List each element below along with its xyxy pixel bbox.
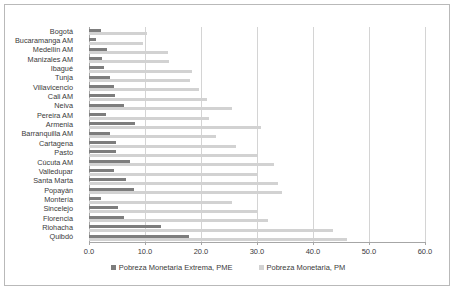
x-axis-tick xyxy=(257,242,258,245)
x-axis-tick xyxy=(313,242,314,245)
x-axis-tick-label: 30.0 xyxy=(250,247,265,256)
category-label: Armenia xyxy=(46,121,73,128)
bar-row: Valledupar xyxy=(5,167,449,176)
bar-pobreza-monetaria xyxy=(89,191,282,194)
bar-row: Armenia xyxy=(5,120,449,129)
bar-row: Riohacha xyxy=(5,223,449,232)
bar-pobreza-monetaria xyxy=(89,219,268,222)
bar-row: Bucaramanga AM xyxy=(5,36,449,45)
bar-pobreza-monetaria xyxy=(89,135,216,138)
bar-pobreza-monetaria-extrema xyxy=(89,57,102,60)
bar-pobreza-monetaria-extrema xyxy=(89,178,126,181)
chart-container: 0.010.020.030.040.050.060.0 BogotáBucara… xyxy=(0,0,457,294)
x-axis-tick xyxy=(425,242,426,245)
category-label: Ibagué xyxy=(51,65,73,72)
bar-pobreza-monetaria-extrema xyxy=(89,225,161,228)
bar-row: Popayán xyxy=(5,186,449,195)
bar-row: Pereira AM xyxy=(5,111,449,120)
category-label: Barranquilla AM xyxy=(21,130,73,137)
category-label: Medellín AM xyxy=(33,46,73,53)
legend-item[interactable]: Pobreza Monetaria, PM xyxy=(259,263,346,272)
legend-label: Pobreza Monetaria Extrema, PME xyxy=(119,263,233,272)
category-label: Pasto xyxy=(54,149,73,156)
category-label: Cartagena xyxy=(39,140,73,147)
bar-pobreza-monetaria-extrema xyxy=(89,235,189,238)
bar-pobreza-monetaria-extrema xyxy=(89,113,106,116)
bar-pobreza-monetaria xyxy=(89,107,232,110)
bar-row: Sincelejo xyxy=(5,205,449,214)
category-label: Valledupar xyxy=(39,168,73,175)
bar-pobreza-monetaria-extrema xyxy=(89,206,118,209)
bar-row: Manizales AM xyxy=(5,55,449,64)
bar-row: Cúcuta AM xyxy=(5,158,449,167)
bar-pobreza-monetaria xyxy=(89,173,257,176)
x-axis-tick xyxy=(89,242,90,245)
x-axis-tick xyxy=(145,242,146,245)
bar-row: Pasto xyxy=(5,149,449,158)
bar-row: Cartagena xyxy=(5,139,449,148)
bar-pobreza-monetaria xyxy=(89,42,143,45)
bar-row: Montería xyxy=(5,195,449,204)
x-axis-tick xyxy=(369,242,370,245)
legend-swatch-icon xyxy=(111,265,116,270)
bar-row: Barranquilla AM xyxy=(5,130,449,139)
bar-pobreza-monetaria xyxy=(89,32,147,35)
bar-pobreza-monetaria xyxy=(89,201,232,204)
category-label: Manizales AM xyxy=(28,56,73,63)
bar-pobreza-monetaria xyxy=(89,98,207,101)
bar-row: Ibagué xyxy=(5,64,449,73)
category-label: Villavicencio xyxy=(33,84,73,91)
legend-label: Pobreza Monetaria, PM xyxy=(267,263,346,272)
bar-pobreza-monetaria xyxy=(89,154,258,157)
bar-pobreza-monetaria xyxy=(89,182,278,185)
bar-pobreza-monetaria-extrema xyxy=(89,197,101,200)
bar-pobreza-monetaria-extrema xyxy=(89,104,124,107)
bar-pobreza-monetaria xyxy=(89,88,199,91)
bar-pobreza-monetaria-extrema xyxy=(89,66,104,69)
bar-pobreza-monetaria-extrema xyxy=(89,132,110,135)
bar-pobreza-monetaria xyxy=(89,60,169,63)
category-label: Bogotá xyxy=(50,28,73,35)
category-label: Bucaramanga AM xyxy=(15,37,73,44)
chart-legend: Pobreza Monetaria Extrema, PMEPobreza Mo… xyxy=(5,263,451,272)
bar-row: Santa Marta xyxy=(5,177,449,186)
bar-pobreza-monetaria-extrema xyxy=(89,29,101,32)
bar-pobreza-monetaria-extrema xyxy=(89,216,124,219)
bar-pobreza-monetaria-extrema xyxy=(89,160,130,163)
bar-pobreza-monetaria xyxy=(89,145,236,148)
category-label: Neiva xyxy=(54,102,73,109)
x-axis-tick-label: 50.0 xyxy=(362,247,377,256)
bar-pobreza-monetaria-extrema xyxy=(89,150,116,153)
bar-pobreza-monetaria xyxy=(89,238,347,241)
category-label: Pereira AM xyxy=(37,112,73,119)
bar-pobreza-monetaria-extrema xyxy=(89,122,135,125)
bar-pobreza-monetaria xyxy=(89,126,261,129)
bar-row: Cali AM xyxy=(5,92,449,101)
category-label: Riohacha xyxy=(42,224,73,231)
legend-item[interactable]: Pobreza Monetaria Extrema, PME xyxy=(111,263,233,272)
category-label: Montería xyxy=(44,196,73,203)
category-label: Tunja xyxy=(55,74,73,81)
bar-pobreza-monetaria-extrema xyxy=(89,85,114,88)
bar-row: Florencia xyxy=(5,214,449,223)
legend-swatch-icon xyxy=(259,265,264,270)
x-axis-tick xyxy=(201,242,202,245)
bar-pobreza-monetaria xyxy=(89,51,168,54)
bar-pobreza-monetaria-extrema xyxy=(89,76,110,79)
bar-pobreza-monetaria-extrema xyxy=(89,141,116,144)
category-label: Cali AM xyxy=(48,93,73,100)
bar-row: Quibdó xyxy=(5,233,449,242)
category-label: Florencia xyxy=(43,215,73,222)
bar-pobreza-monetaria xyxy=(89,117,209,120)
x-axis-tick-label: 40.0 xyxy=(306,247,321,256)
bar-row: Bogotá xyxy=(5,27,449,36)
category-label: Cúcuta AM xyxy=(37,159,73,166)
bar-pobreza-monetaria xyxy=(89,163,274,166)
bar-row: Medellín AM xyxy=(5,46,449,55)
bar-row: Villavicencio xyxy=(5,83,449,92)
bar-pobreza-monetaria-extrema xyxy=(89,94,115,97)
category-label: Santa Marta xyxy=(33,177,73,184)
x-axis-tick-label: 60.0 xyxy=(418,247,433,256)
bar-pobreza-monetaria xyxy=(89,70,192,73)
category-label: Quibdó xyxy=(49,233,73,240)
